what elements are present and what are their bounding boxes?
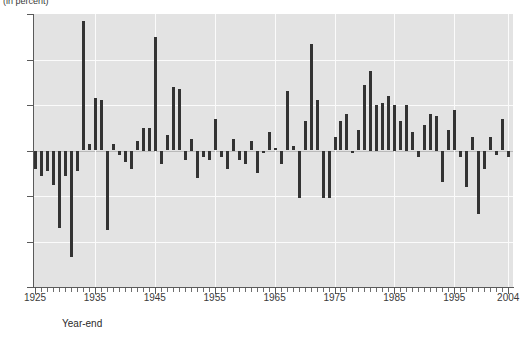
x-tick-minor [287,288,288,292]
bar [459,151,462,158]
bar [328,151,331,199]
x-tick-label: 1925 [24,292,46,303]
units-label: (in percent) [3,0,49,6]
x-tick-minor [125,288,126,292]
x-tick-minor [317,288,318,292]
bar [310,44,313,151]
x-tick-minor [245,288,246,292]
x-tick-minor [251,288,252,292]
bar [441,151,444,183]
gridline-vertical [454,14,455,287]
x-tick-minor [370,288,371,292]
x-tick-minor [185,288,186,292]
bar [256,151,259,174]
x-tick-minor [65,288,66,292]
x-tick-minor [113,288,114,292]
bar [471,137,474,151]
x-tick-minor [53,288,54,292]
bar [58,151,61,228]
x-tick-minor [293,288,294,292]
bar [507,151,510,158]
bar [172,87,175,151]
bar [262,151,265,153]
x-tick-minor [131,288,132,292]
bar [322,151,325,199]
bar [106,151,109,231]
x-tick-minor [107,288,108,292]
gridline-vertical [335,14,336,287]
bar [274,148,277,150]
x-tick-minor [239,288,240,292]
x-tick-minor [77,288,78,292]
y-tick-mark [27,242,33,243]
bar [417,151,420,158]
x-tick-label: 1965 [263,292,285,303]
bar [489,137,492,151]
plot-area [33,14,513,287]
bar [495,151,498,156]
gridline-vertical [394,14,395,287]
y-tick-mark [27,287,33,288]
bar [52,151,55,185]
gridline-horizontal [33,60,513,61]
x-tick-minor [418,288,419,292]
bar [118,151,121,156]
gridline-vertical [275,14,276,287]
bar [268,132,271,150]
bar [208,151,211,160]
x-tick-minor [430,288,431,292]
x-tick-minor [179,288,180,292]
x-tick-minor [436,288,437,292]
bar [64,151,67,176]
bar [369,71,372,151]
bar [82,21,85,151]
x-tick-minor [59,288,60,292]
x-tick-minor [466,288,467,292]
x-tick-minor [137,288,138,292]
chart-root: (in percent) 6040200-20-40-60 1925193519… [0,0,520,344]
bar [339,121,342,151]
y-axis-line [33,14,34,288]
bar [136,141,139,150]
x-tick-minor [71,288,72,292]
bar [232,139,235,150]
gridline-vertical [95,14,96,287]
bar [393,105,396,151]
x-tick-minor [191,288,192,292]
x-tick-minor [227,288,228,292]
x-tick-minor [346,288,347,292]
bar [220,151,223,158]
x-tick-minor [311,288,312,292]
y-tick-mark [27,196,33,197]
bar [345,114,348,150]
y-tick-mark [27,60,33,61]
x-tick-label: 1995 [443,292,465,303]
x-axis-title: Year-end [62,318,102,329]
bar [166,135,169,151]
x-tick-label: 1975 [323,292,345,303]
bar [184,151,187,160]
x-tick-minor [305,288,306,292]
gridline-horizontal [33,105,513,106]
x-tick-label: 1935 [84,292,106,303]
bar [94,98,97,150]
gridline-vertical [215,14,216,287]
bar [244,151,247,165]
bar [399,121,402,151]
bar [334,137,337,151]
bar [76,151,79,171]
bar [501,119,504,151]
x-tick-label: 1985 [383,292,405,303]
y-tick-mark [27,14,33,15]
bar [453,110,456,151]
bar [160,151,163,165]
bar [190,139,193,150]
x-tick-minor [478,288,479,292]
x-tick-minor [484,288,485,292]
bar [423,125,426,150]
bar [280,151,283,165]
bar [40,151,43,176]
x-tick-minor [233,288,234,292]
bar [405,105,408,151]
x-tick-minor [173,288,174,292]
